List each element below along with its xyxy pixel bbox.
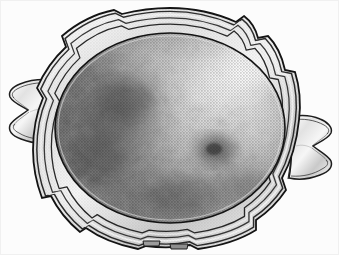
photograph-figure: Black and white halftone photograph of a…: [0, 0, 339, 255]
silver-tray-image: [0, 0, 339, 255]
